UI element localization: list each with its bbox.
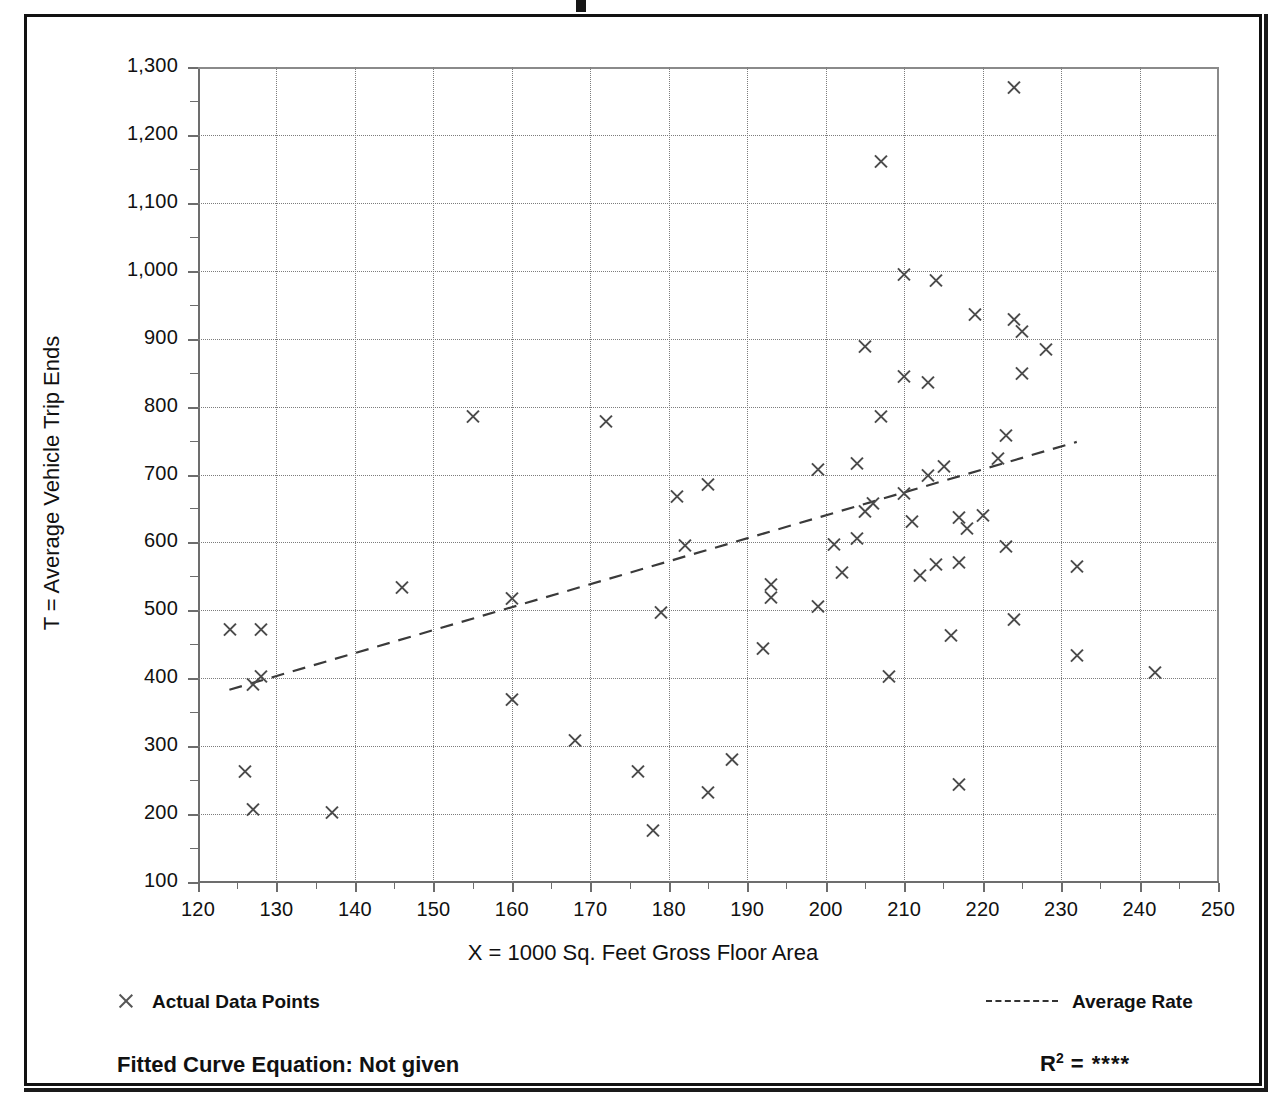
y-axis-tick (188, 542, 198, 544)
x-tick-label: 200 (791, 898, 861, 921)
y-axis-minor-tick (190, 441, 198, 442)
x-axis-tick (590, 883, 592, 892)
y-axis-tick (188, 271, 198, 273)
y-axis-minor-tick (190, 848, 198, 849)
fitted-curve-equation: Fitted Curve Equation: Not given (117, 1052, 459, 1078)
y-tick-label: 800 (100, 394, 178, 417)
x-axis-tick (826, 883, 828, 892)
dashed-line-icon (986, 1000, 1058, 1002)
y-axis-minor-tick (190, 305, 198, 306)
x-marker-icon (117, 992, 135, 1010)
y-axis-minor-tick (190, 576, 198, 577)
gridline-vertical (512, 67, 513, 882)
y-axis-tick (188, 475, 198, 477)
gridline-horizontal (198, 135, 1218, 136)
y-axis-tick (188, 610, 198, 612)
y-axis-minor-tick (190, 101, 198, 102)
gridline-horizontal (198, 610, 1218, 611)
y-axis-tick (188, 814, 198, 816)
x-axis-minor-tick (865, 883, 866, 889)
y-axis-tick (188, 135, 198, 137)
x-axis-tick (198, 883, 200, 892)
y-tick-label: 500 (100, 597, 178, 620)
y-axis-minor-tick (190, 169, 198, 170)
y-axis-title: T = Average Vehicle Trip Ends (39, 133, 65, 833)
y-axis-tick (188, 678, 198, 680)
gridline-vertical (590, 67, 591, 882)
y-axis-tick (188, 882, 198, 884)
y-axis-tick (188, 746, 198, 748)
y-tick-label: 1,000 (100, 258, 178, 281)
gridline-horizontal (198, 542, 1218, 543)
x-axis-tick (433, 883, 435, 892)
chart-page: 1002003004005006007008009001,0001,1001,2… (0, 0, 1286, 1102)
x-axis-minor-tick (237, 883, 238, 889)
x-axis-tick (1061, 883, 1063, 892)
x-tick-label: 230 (1026, 898, 1096, 921)
gridline-vertical (433, 67, 434, 882)
gridline-vertical (669, 67, 670, 882)
y-tick-label: 1,300 (100, 54, 178, 77)
gridline-vertical (1061, 67, 1062, 882)
y-axis-minor-tick (190, 780, 198, 781)
x-axis-minor-tick (316, 883, 317, 889)
x-tick-label: 220 (948, 898, 1018, 921)
y-tick-label: 1,100 (100, 190, 178, 213)
gridline-vertical (826, 67, 827, 882)
x-axis-tick (669, 883, 671, 892)
y-axis-minor-tick (190, 508, 198, 509)
y-tick-label: 300 (100, 733, 178, 756)
y-tick-label: 400 (100, 665, 178, 688)
gridline-horizontal (198, 203, 1218, 204)
y-tick-label: 1,200 (100, 122, 178, 145)
gridline-vertical (747, 67, 748, 882)
plot-top-border (198, 67, 1219, 69)
x-axis-minor-tick (394, 883, 395, 889)
r2-rest: = **** (1064, 1051, 1130, 1076)
x-axis-minor-tick (943, 883, 944, 889)
x-axis-tick (276, 883, 278, 892)
y-tick-label: 100 (100, 869, 178, 892)
x-axis-tick (747, 883, 749, 892)
y-tick-label: 700 (100, 462, 178, 485)
r2-exponent: 2 (1056, 1050, 1064, 1066)
x-axis-tick (512, 883, 514, 892)
x-tick-label: 120 (163, 898, 233, 921)
y-axis-tick (188, 407, 198, 409)
y-axis-tick (188, 67, 198, 69)
x-axis-tick (1140, 883, 1142, 892)
gridline-vertical (1140, 67, 1141, 882)
x-tick-label: 170 (555, 898, 625, 921)
x-tick-label: 140 (320, 898, 390, 921)
x-tick-label: 150 (398, 898, 468, 921)
x-tick-label: 160 (477, 898, 547, 921)
x-tick-label: 250 (1183, 898, 1253, 921)
gridline-vertical (276, 67, 277, 882)
x-tick-label: 190 (712, 898, 782, 921)
x-tick-label: 210 (869, 898, 939, 921)
x-axis-minor-tick (551, 883, 552, 889)
x-axis-minor-tick (630, 883, 631, 889)
x-axis-title: X = 1000 Sq. Feet Gross Floor Area (0, 940, 1286, 966)
x-axis-minor-tick (1100, 883, 1101, 889)
x-axis-minor-tick (708, 883, 709, 889)
gridline-horizontal (198, 475, 1218, 476)
gridline-vertical (904, 67, 905, 882)
y-axis-minor-tick (190, 644, 198, 645)
x-axis-tick (904, 883, 906, 892)
gridline-horizontal (198, 339, 1218, 340)
x-axis-minor-tick (786, 883, 787, 889)
legend-data-points-label: Actual Data Points (152, 991, 320, 1013)
x-tick-label: 130 (241, 898, 311, 921)
gridline-horizontal (198, 271, 1218, 272)
x-tick-label: 240 (1105, 898, 1175, 921)
x-axis-tick (1218, 883, 1220, 892)
r-squared-value: R2 = **** (1040, 1050, 1130, 1077)
gridline-vertical (983, 67, 984, 882)
x-axis-minor-tick (1179, 883, 1180, 889)
y-axis-minor-tick (190, 237, 198, 238)
legend-average-rate-label: Average Rate (1072, 991, 1193, 1013)
gridline-vertical (355, 67, 356, 882)
y-axis-tick (188, 203, 198, 205)
gridline-horizontal (198, 746, 1218, 747)
